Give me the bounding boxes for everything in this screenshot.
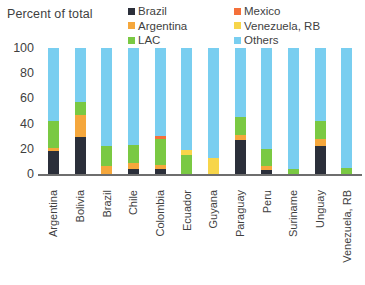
bar-slot bbox=[173, 48, 200, 174]
x-label-slot: Colombia bbox=[147, 190, 174, 285]
bar-segment bbox=[75, 115, 86, 138]
stacked-bar[interactable] bbox=[101, 48, 112, 174]
y-axis-tick-label: 80 bbox=[20, 67, 34, 79]
bar-slot bbox=[227, 48, 254, 174]
bar-segment bbox=[315, 139, 326, 147]
bar-segment bbox=[208, 158, 219, 174]
x-axis-line bbox=[38, 174, 362, 176]
legend-item-label: LAC bbox=[138, 34, 160, 46]
bar-segment bbox=[315, 146, 326, 174]
x-label-slot: Brazil bbox=[93, 190, 120, 285]
bar-segment bbox=[128, 145, 139, 163]
legend-item[interactable]: LAC bbox=[128, 34, 234, 46]
stacked-bar[interactable] bbox=[261, 48, 272, 174]
bar-slot bbox=[40, 48, 67, 174]
bar-segment bbox=[288, 48, 299, 169]
bar-slot bbox=[93, 48, 120, 174]
x-axis-tick-label: Brazil bbox=[101, 190, 112, 218]
bar-slot bbox=[67, 48, 94, 174]
chart-legend: BrazilMexicoArgentinaVenezuela, RBLACOth… bbox=[128, 4, 363, 48]
bar-slot bbox=[120, 48, 147, 174]
stacked-bar[interactable] bbox=[155, 48, 166, 174]
legend-item-label: Venezuela, RB bbox=[244, 20, 320, 32]
stacked-bar[interactable] bbox=[48, 48, 59, 174]
legend-item-label: Brazil bbox=[138, 5, 167, 17]
bar-segment bbox=[181, 155, 192, 174]
stacked-bar[interactable] bbox=[75, 48, 86, 174]
bar-segment bbox=[75, 102, 86, 115]
stacked-bar[interactable] bbox=[235, 48, 246, 174]
bar-segment bbox=[101, 166, 112, 174]
legend-item[interactable]: Brazil bbox=[128, 5, 234, 17]
y-axis-tick-label: 60 bbox=[20, 92, 34, 104]
y-axis: 100806040200 bbox=[0, 48, 36, 180]
bar-segment bbox=[235, 140, 246, 174]
legend-item-label: Mexico bbox=[244, 5, 280, 17]
bar-slot bbox=[280, 48, 307, 174]
legend-item[interactable]: Venezuela, RB bbox=[234, 20, 359, 32]
plot-wrapper: 100806040200 bbox=[0, 48, 365, 188]
stacked-bar[interactable] bbox=[341, 48, 352, 174]
bar-segment bbox=[181, 48, 192, 150]
bar-slot bbox=[307, 48, 334, 174]
x-label-slot: Ecuador bbox=[173, 190, 200, 285]
stacked-bar[interactable] bbox=[315, 48, 326, 174]
bar-segment bbox=[128, 48, 139, 145]
bar-segment bbox=[235, 117, 246, 135]
bar-segment bbox=[341, 48, 352, 168]
x-label-slot: Bolivia bbox=[67, 190, 94, 285]
y-axis-title: Percent of total bbox=[7, 7, 93, 21]
legend-item[interactable]: Argentina bbox=[128, 20, 234, 32]
stacked-bar-chart: Percent of total BrazilMexicoArgentinaVe… bbox=[0, 0, 365, 285]
x-axis-tick-label: Venezuela, RB bbox=[341, 190, 352, 263]
stacked-bar[interactable] bbox=[208, 48, 219, 174]
bar-group bbox=[40, 48, 360, 174]
x-axis-labels: ArgentinaBoliviaBrazilChileColombiaEcuad… bbox=[40, 190, 360, 285]
x-axis-tick-label: Bolivia bbox=[75, 190, 86, 222]
legend-item[interactable]: Others bbox=[234, 34, 359, 46]
stacked-bar[interactable] bbox=[288, 48, 299, 174]
bar-segment bbox=[208, 48, 219, 158]
x-label-slot: Suriname bbox=[280, 190, 307, 285]
bar-segment bbox=[261, 149, 272, 167]
x-axis-tick-label: Paraguay bbox=[235, 190, 246, 237]
legend-swatch-icon bbox=[234, 8, 241, 15]
bar-slot bbox=[333, 48, 360, 174]
legend-swatch-icon bbox=[128, 37, 135, 44]
bar-segment bbox=[155, 48, 166, 136]
legend-item[interactable]: Mexico bbox=[234, 5, 359, 17]
chart-header: Percent of total BrazilMexicoArgentinaVe… bbox=[0, 0, 365, 48]
bar-segment bbox=[48, 151, 59, 174]
bar-slot bbox=[253, 48, 280, 174]
x-label-slot: Unguay bbox=[307, 190, 334, 285]
y-axis-tick-label: 0 bbox=[27, 168, 34, 180]
x-axis-tick-label: Argentina bbox=[48, 190, 59, 237]
bar-segment bbox=[155, 139, 166, 165]
legend-swatch-icon bbox=[234, 22, 241, 29]
bar-segment bbox=[75, 48, 86, 102]
legend-swatch-icon bbox=[234, 37, 241, 44]
stacked-bar[interactable] bbox=[181, 48, 192, 174]
legend-item-label: Others bbox=[244, 34, 279, 46]
bar-segment bbox=[315, 121, 326, 139]
plot-area bbox=[40, 48, 360, 174]
bar-segment bbox=[101, 146, 112, 166]
x-label-slot: Chile bbox=[120, 190, 147, 285]
x-axis-tick-label: Colombia bbox=[155, 190, 166, 236]
bar-slot bbox=[147, 48, 174, 174]
bar-segment bbox=[75, 137, 86, 174]
y-axis-tick-label: 20 bbox=[20, 143, 34, 155]
bar-segment bbox=[48, 48, 59, 121]
x-label-slot: Guyana bbox=[200, 190, 227, 285]
bar-segment bbox=[48, 121, 59, 147]
x-axis-tick-label: Peru bbox=[261, 190, 272, 213]
x-axis-tick-label: Ecuador bbox=[181, 190, 192, 231]
stacked-bar[interactable] bbox=[128, 48, 139, 174]
x-label-slot: Paraguay bbox=[227, 190, 254, 285]
legend-swatch-icon bbox=[128, 22, 135, 29]
x-axis-tick-label: Chile bbox=[128, 190, 139, 215]
bar-segment bbox=[101, 48, 112, 146]
bar-slot bbox=[200, 48, 227, 174]
x-label-slot: Argentina bbox=[40, 190, 67, 285]
x-label-slot: Venezuela, RB bbox=[333, 190, 360, 285]
